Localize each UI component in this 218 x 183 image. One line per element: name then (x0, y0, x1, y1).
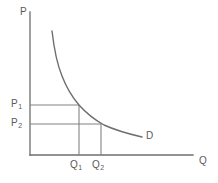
y-tick-label-p1-base: P (11, 98, 18, 109)
x-tick-label-q2-base: Q (92, 159, 100, 170)
x-tick-label-q1: Q1 (70, 160, 82, 170)
demand-curve-figure: P Q P1 P2 Q1 Q2 D (0, 0, 218, 183)
x-tick-label-q2: Q2 (92, 160, 104, 170)
y-tick-label-p1: P1 (11, 99, 22, 109)
x-tick-label-q2-subscript: 2 (100, 164, 104, 171)
y-tick-label-p2: P2 (11, 118, 22, 128)
demand-curve-label: D (146, 131, 153, 141)
x-tick-label-q1-base: Q (70, 159, 78, 170)
y-tick-label-p2-base: P (11, 117, 18, 128)
y-tick-label-p2-subscript: 2 (18, 122, 22, 129)
y-tick-label-p1-subscript: 1 (18, 103, 22, 110)
x-tick-label-q1-subscript: 1 (78, 164, 82, 171)
demand-curve-plot (0, 0, 218, 183)
x-axis-title: Q (199, 156, 207, 166)
y-axis-title: P (20, 7, 27, 17)
demand-curve-path (52, 31, 142, 137)
